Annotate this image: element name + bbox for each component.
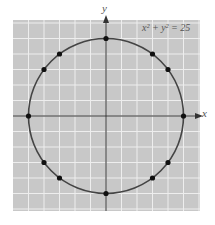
data-point: [103, 36, 108, 41]
data-point: [57, 175, 62, 180]
equation-label: x² + y² = 25: [142, 22, 190, 33]
data-point: [26, 113, 31, 118]
y-axis-label: y: [102, 2, 107, 14]
circle-graph: [0, 0, 215, 225]
data-point: [150, 51, 155, 56]
data-point: [57, 51, 62, 56]
y-axis-arrow-icon: [103, 15, 109, 23]
data-point: [181, 113, 186, 118]
data-point: [41, 160, 46, 165]
data-point: [165, 67, 170, 72]
x-axis-label: x: [202, 107, 207, 119]
data-point: [103, 191, 108, 196]
data-point: [165, 160, 170, 165]
data-point: [150, 175, 155, 180]
data-point: [41, 67, 46, 72]
